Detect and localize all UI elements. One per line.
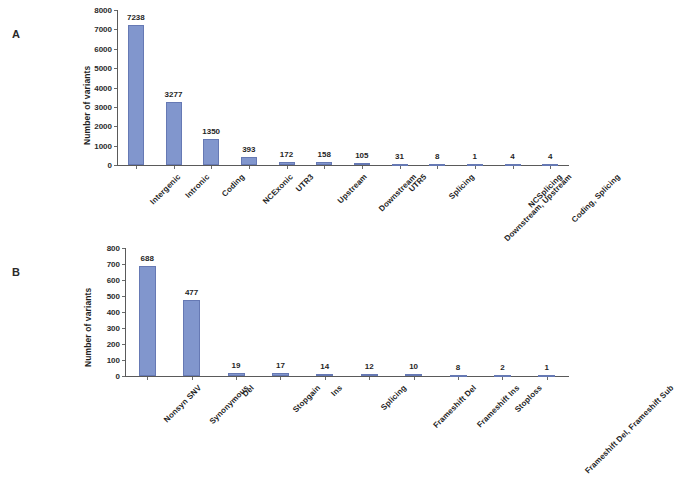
- chart-a-y-tick-label: 1000: [94, 141, 112, 150]
- chart-b-y-tick-mark: [122, 280, 125, 281]
- bar: [228, 373, 245, 376]
- x-category-label: Downstream, Upstream: [502, 172, 573, 243]
- bar-value-label: 4: [510, 152, 514, 161]
- bar-value-label: 1: [473, 152, 477, 161]
- chart-a-y-tick-mark: [114, 126, 117, 127]
- x-tick-mark: [136, 166, 137, 169]
- x-tick-mark: [147, 377, 148, 380]
- bar: [241, 157, 257, 165]
- chart-b-y-tick-mark: [122, 248, 125, 249]
- x-category-label: Coding, Splicing: [570, 172, 622, 224]
- bar: [139, 266, 156, 376]
- chart-b-y-tick-label: 800: [107, 244, 120, 253]
- x-tick-mark: [437, 166, 438, 169]
- x-tick-mark: [174, 166, 175, 169]
- bar-value-label: 14: [320, 362, 329, 371]
- x-tick-mark: [475, 166, 476, 169]
- bar-value-label: 105: [355, 151, 368, 160]
- bar-value-label: 1: [545, 363, 549, 372]
- chart-a-y-tick-label: 7000: [94, 25, 112, 34]
- x-category-label: Splicing: [447, 172, 476, 201]
- bar-value-label: 3277: [165, 90, 183, 99]
- x-category-label: Stopgain: [291, 383, 322, 414]
- bar-value-label: 8: [456, 363, 460, 372]
- bar: [316, 162, 332, 165]
- x-tick-mark: [280, 377, 281, 380]
- x-tick-mark: [550, 166, 551, 169]
- chart-b-y-tick-mark: [122, 312, 125, 313]
- bar-value-label: 1350: [202, 127, 220, 136]
- chart-a-y-tick-mark: [114, 10, 117, 11]
- x-tick-mark: [458, 377, 459, 380]
- chart-b-y-axis: [125, 248, 126, 376]
- x-category-label: Frameshift Del, Frameshift Sub: [583, 383, 675, 475]
- bar-value-label: 12: [365, 362, 374, 371]
- bar: [279, 162, 295, 165]
- bar: [316, 374, 333, 376]
- panel-a: A Number of variants 0100020003000400050…: [0, 0, 576, 250]
- bar: [272, 373, 289, 376]
- x-tick-mark: [502, 377, 503, 380]
- x-category-label: UTR3: [294, 172, 315, 193]
- chart-a-y-axis: [117, 10, 118, 165]
- chart-b-y-tick-label: 400: [107, 308, 120, 317]
- x-tick-mark: [547, 377, 548, 380]
- chart-a-y-tick-label: 8000: [94, 6, 112, 15]
- chart-a-y-tick-label: 0: [108, 161, 112, 170]
- bar-value-label: 7238: [127, 13, 145, 22]
- chart-b-y-tick-mark: [122, 376, 125, 377]
- x-tick-mark: [513, 166, 514, 169]
- bar: [361, 374, 378, 376]
- chart-a-x-axis: [117, 165, 569, 166]
- x-tick-mark: [287, 166, 288, 169]
- x-category-label: Coding: [220, 172, 246, 198]
- bar-value-label: 19: [232, 361, 241, 370]
- x-category-label: Intronic: [183, 172, 211, 200]
- bar-value-label: 172: [280, 150, 293, 159]
- bar-value-label: 8: [435, 152, 439, 161]
- bar-value-label: 688: [141, 254, 154, 263]
- chart-b-y-tick-label: 600: [107, 276, 120, 285]
- bar-value-label: 31: [395, 152, 404, 161]
- bar-value-label: 4: [548, 152, 552, 161]
- chart-b-y-tick-mark: [122, 360, 125, 361]
- chart-a-y-tick-label: 4000: [94, 83, 112, 92]
- chart-b-y-tick-label: 500: [107, 292, 120, 301]
- x-tick-mark: [369, 377, 370, 380]
- bar-value-label: 2: [500, 363, 504, 372]
- panel-b: B Number of variants 0100200300400500600…: [0, 240, 576, 501]
- chart-a-y-tick-mark: [114, 68, 117, 69]
- x-category-label: Frameshift Del: [431, 383, 478, 430]
- x-category-label: NCExonic: [261, 172, 295, 206]
- chart-a-y-tick-mark: [114, 146, 117, 147]
- chart-a-plot-area: Number of variants 010002000300040005000…: [0, 0, 576, 250]
- bar-value-label: 17: [276, 361, 285, 370]
- bar: [183, 300, 200, 376]
- chart-a-y-tick-mark: [114, 49, 117, 50]
- x-tick-mark: [249, 166, 250, 169]
- x-category-label: Upstream: [336, 172, 369, 205]
- x-tick-mark: [324, 166, 325, 169]
- x-tick-mark: [414, 377, 415, 380]
- chart-b-y-tick-label: 300: [107, 324, 120, 333]
- bar: [354, 163, 370, 165]
- x-tick-mark: [192, 377, 193, 380]
- chart-a-y-axis-label: Number of variants: [82, 25, 92, 145]
- chart-b-y-tick-label: 100: [107, 356, 120, 365]
- bar: [203, 139, 219, 165]
- chart-a-y-tick-mark: [114, 88, 117, 89]
- chart-a-y-tick-label: 2000: [94, 122, 112, 131]
- chart-b-y-tick-mark: [122, 344, 125, 345]
- bar-value-label: 477: [185, 288, 198, 297]
- chart-b-y-axis-label: Number of variants: [83, 247, 93, 367]
- chart-a-y-tick-mark: [114, 107, 117, 108]
- chart-a-y-tick-label: 6000: [94, 44, 112, 53]
- bar-value-label: 158: [317, 150, 330, 159]
- bar-value-label: 10: [409, 362, 418, 371]
- x-tick-mark: [362, 166, 363, 169]
- chart-b-y-tick-mark: [122, 328, 125, 329]
- chart-b-y-tick-label: 0: [116, 372, 120, 381]
- x-category-label: Splicing: [379, 383, 408, 412]
- x-tick-mark: [236, 377, 237, 380]
- x-tick-mark: [400, 166, 401, 169]
